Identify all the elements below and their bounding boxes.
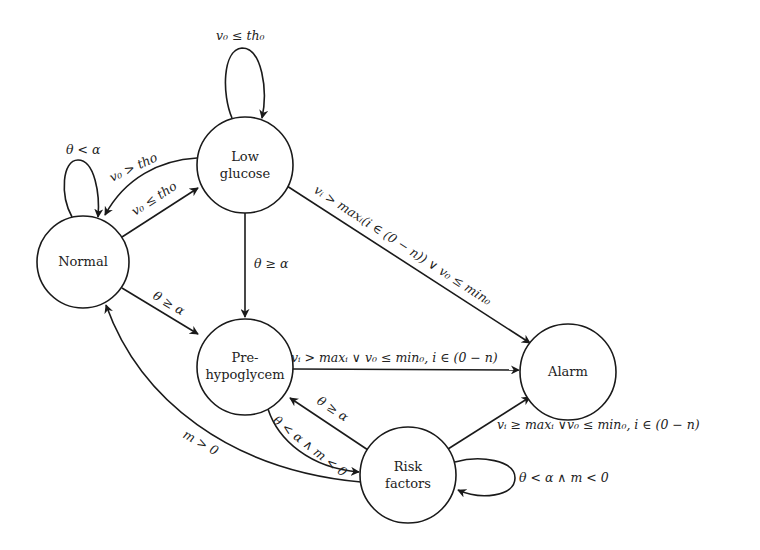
node-pre-line1: Pre- [231, 350, 258, 365]
label-risk-to-pre: θ ≥ α [314, 393, 351, 425]
node-risk-line1: Risk [394, 459, 423, 474]
node-risk-factors: Risk factors [360, 427, 456, 523]
label-low-self: v₀ ≤ th₀ [216, 28, 265, 43]
label-normal-self: θ < α [66, 142, 101, 157]
label-risk-to-normal: m > 0 [181, 427, 222, 459]
edge-pre-to-alarm [293, 369, 519, 370]
node-alarm-label: Alarm [547, 364, 588, 379]
edge-labels: v₀ ≤ th₀ θ < α v₀ > tho v₀ ≤ tho θ ≥ α v… [66, 28, 700, 485]
state-diagram: v₀ ≤ th₀ θ < α v₀ > tho v₀ ≤ tho θ ≥ α v… [0, 0, 760, 550]
node-low-glucose-line1: Low [231, 149, 259, 164]
edge-normal-self [64, 160, 98, 217]
label-normal-to-low: v₀ ≤ tho [128, 178, 179, 218]
edge-low-to-alarm [287, 186, 530, 343]
node-low-glucose-line2: glucose [220, 166, 271, 181]
node-pre-hypoglycem: Pre- hypoglycem [197, 319, 293, 415]
node-normal-label: Normal [58, 254, 108, 269]
node-alarm: Alarm [520, 324, 616, 420]
node-pre-line2: hypoglycem [206, 367, 285, 382]
label-pre-to-risk: θ < α ∧ m < 0 [270, 413, 350, 480]
node-normal: Normal [37, 216, 129, 308]
node-low-glucose: Low glucose [197, 117, 293, 213]
label-low-to-alarm: vᵢ > maxᵢ(i ∈ (0 − n)) ∨ v₀ ≤ min₀ [311, 182, 494, 308]
label-risk-to-alarm: vᵢ ≥ maxᵢ ∨v₀ ≤ min₀, i ∈ (0 − n) [497, 417, 700, 432]
label-normal-to-pre: θ ≥ α [150, 288, 188, 319]
label-risk-self: θ < α ∧ m < 0 [519, 470, 609, 485]
label-low-to-pre: θ ≥ α [254, 256, 289, 271]
node-risk-line2: factors [385, 476, 431, 491]
edge-risk-self [455, 459, 515, 496]
edge-low-self [225, 48, 264, 118]
label-pre-to-alarm: vᵢ > maxᵢ ∨ v₀ ≤ min₀, i ∈ (0 − n) [291, 350, 498, 365]
label-low-to-normal: v₀ > tho [107, 150, 160, 185]
